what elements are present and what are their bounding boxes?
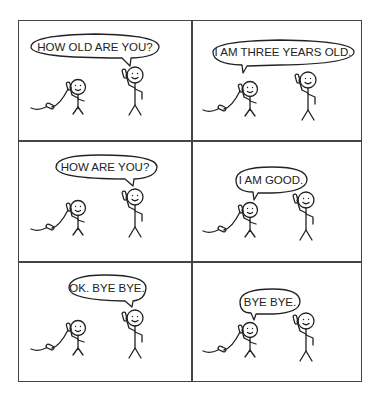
speech-text: I AM GOOD. — [239, 174, 304, 186]
speech-text: HOW OLD ARE YOU? — [37, 41, 152, 53]
panel-6: BYE BYE. — [203, 289, 314, 361]
panel-1: HOW OLD ARE YOU? — [31, 34, 159, 115]
speech-text: OK. BYE BYE. — [69, 282, 144, 294]
comic-drawings: HOW OLD ARE YOU? I AM THREE YEARS OLD. H… — [0, 0, 381, 400]
speech-text: I AM THREE YEARS OLD. — [215, 46, 352, 58]
speech-text: HOW ARE YOU? — [61, 161, 150, 173]
panel-5: OK. BYE BYE. — [31, 275, 146, 358]
panel-3: HOW ARE YOU? — [31, 155, 157, 237]
speech-text: BYE BYE. — [244, 296, 296, 308]
panel-2: I AM THREE YEARS OLD. — [203, 40, 354, 120]
panel-4: I AM GOOD. — [203, 167, 314, 240]
